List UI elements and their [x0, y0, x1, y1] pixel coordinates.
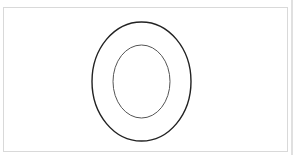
inner-ellipse	[113, 45, 170, 118]
outer-ellipse	[92, 22, 191, 141]
diagram-canvas	[0, 0, 294, 155]
ellipses-drawing	[0, 0, 294, 155]
